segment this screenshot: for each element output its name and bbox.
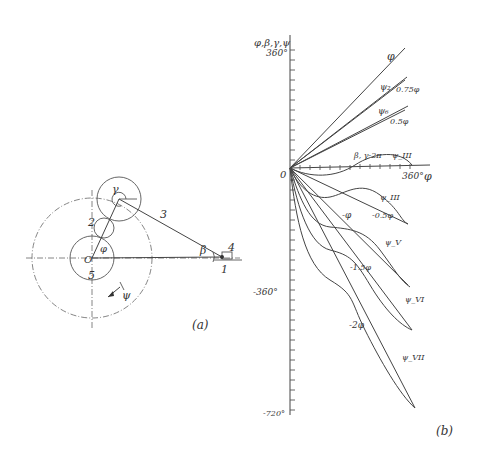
x-axis-label: φ [424,170,432,183]
origin-label: 0 [280,169,287,180]
label-origin: O [84,254,92,265]
label-neg-2phi: -2φ [349,320,365,330]
label-0.75phi: 0.75φ [396,85,420,94]
connecting-rod-3 [119,199,222,257]
label-link-3: 3 [160,208,167,221]
label-psi-III: ψ_III [380,193,401,202]
label-neg-0.5phi: -0.5φ [372,211,393,220]
label-link-4: 4 [227,241,235,254]
angle-chart: φ,β,γ,ψ 360° -360° -720° 0 360° φ φ ψ₂ 0… [253,35,453,438]
x-tick-360: 360° [402,171,424,181]
y-tick-neg-720: -720° [263,409,285,418]
label-link-2: 2 [87,216,95,229]
y-tick-neg-360: -360° [253,287,278,297]
label-gamma: γ [112,183,119,196]
gear-2 [94,218,114,238]
curve-0.5phi [290,110,405,168]
label-link-1: 1 [221,263,228,276]
label-phi: φ [100,243,107,254]
y-axis-label: φ,β,γ,ψ [254,37,290,48]
label-phi: φ [387,50,395,63]
label-psi-III-top: ψ_III [392,151,413,160]
label-psi-6: ψ₆ [378,106,389,116]
label-neg-phi: -φ [342,210,352,220]
arrow-head-icon [108,291,114,297]
slider-pin [220,255,224,259]
label-psi-V: ψ_V [385,238,402,247]
label-psi-VI: ψ_VI [405,295,425,304]
label-psi-VII: ψ_VII [402,353,425,362]
label-psi: ψ [122,289,131,302]
label-neg-1.5phi: -1.5φ [350,263,371,272]
y-tick-360: 360° [266,48,288,58]
mechanism-diagram: O 5 2 γ φ 3 β 4 1 ψ (a) [26,177,242,332]
label-0.5phi: 0.5φ [390,117,409,126]
label-link-5: 5 [88,269,95,282]
curve-neg-2phi [290,168,415,408]
label-psi-2: ψ₂ [380,82,391,92]
caption-b: (b) [436,424,453,438]
label-beta: β [199,244,206,257]
y-axis-ticks [290,50,295,410]
caption-a: (a) [192,318,209,332]
label-beta-gamma: β, γ-2π [353,151,382,160]
